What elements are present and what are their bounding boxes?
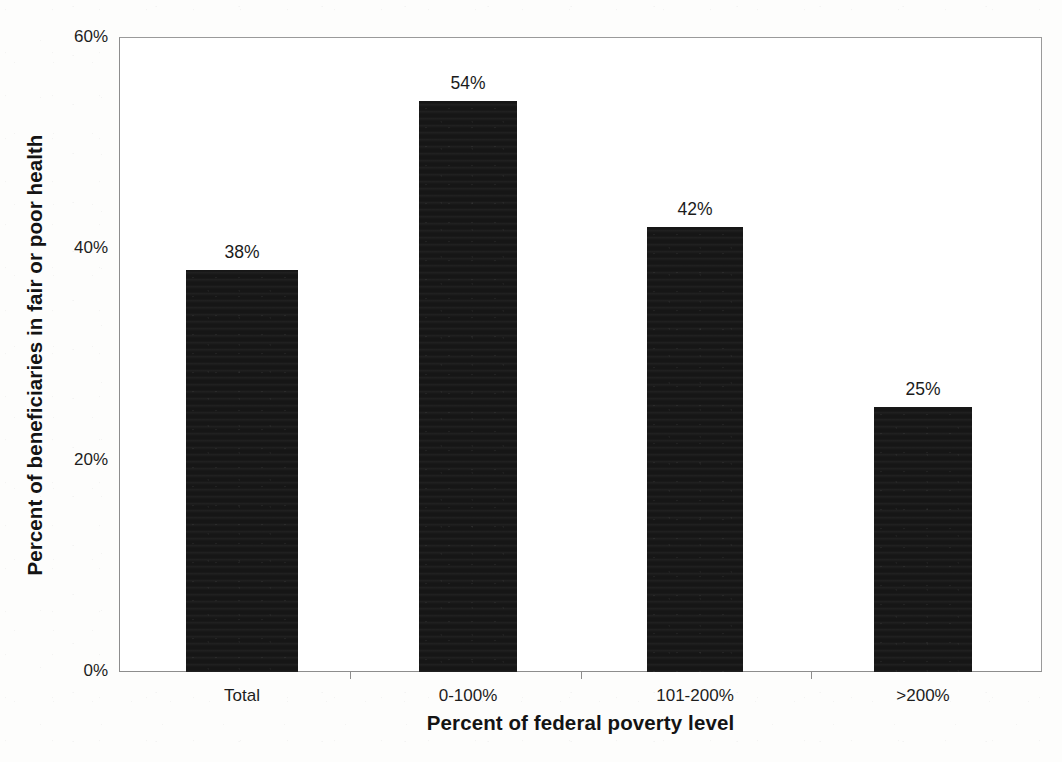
bar-group-101-200: 42%: [647, 37, 743, 672]
y-tick-label-60: 60%: [74, 27, 108, 47]
bar-group-total: 38%: [186, 37, 298, 672]
y-tick-label-0: 0%: [83, 661, 108, 681]
bar-total: [186, 270, 298, 672]
bar-value-label-total: 38%: [156, 242, 328, 263]
bar-0-100: [419, 101, 517, 672]
x-axis-tick-labels: Total 0-100% 101-200% >200%: [119, 672, 1042, 712]
bar-101-200: [647, 227, 743, 672]
x-category-label-over-200: >200%: [896, 686, 949, 706]
bar-group-0-100: 54%: [419, 37, 517, 672]
bar-value-label-101-200: 42%: [617, 199, 773, 220]
x-category-label-101-200: 101-200%: [656, 686, 734, 706]
bar-chart-figure: Percent of beneficiaries in fair or poor…: [0, 0, 1062, 762]
bar-value-label-over-200: 25%: [844, 379, 1002, 400]
bar-group-over-200: 25%: [874, 37, 972, 672]
x-category-label-total: Total: [224, 686, 260, 706]
bar-over-200: [874, 407, 972, 672]
x-tick-mark-1: [350, 672, 351, 679]
y-tick-label-40: 40%: [74, 238, 108, 258]
bars-layer: 38% 54% 42% 25%: [119, 37, 1042, 672]
y-tick-label-20: 20%: [74, 450, 108, 470]
x-axis-title: Percent of federal poverty level: [119, 711, 1042, 735]
bar-value-label-0-100: 54%: [389, 73, 547, 94]
y-axis-tick-labels: 60% 40% 20% 0%: [0, 0, 108, 762]
x-category-label-0-100: 0-100%: [439, 686, 498, 706]
x-tick-mark-3: [811, 672, 812, 679]
x-tick-mark-2: [581, 672, 582, 679]
